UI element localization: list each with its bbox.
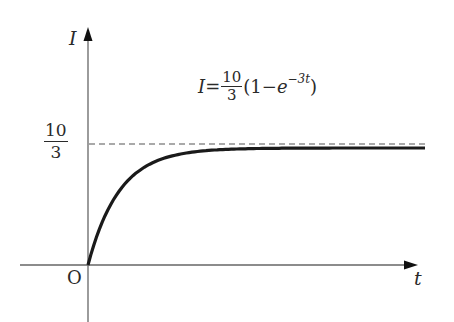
asymptote-label-denominator: 3 <box>50 142 61 161</box>
formula-minus: − <box>262 76 277 97</box>
formula-coefficient: 10 3 <box>221 70 242 103</box>
formula-base: e <box>277 76 288 97</box>
formula-paren-open: (1 <box>243 76 261 97</box>
x-axis-label: t <box>414 267 422 289</box>
current-curve <box>88 148 425 265</box>
y-axis-arrow-icon <box>84 27 93 41</box>
asymptote-label-numerator: 10 <box>44 122 68 142</box>
formula-paren-close: ) <box>310 76 317 97</box>
formula-lhs: I <box>198 76 205 97</box>
formula-exponent: −3t <box>288 72 311 86</box>
y-axis-label: I <box>69 27 77 49</box>
formula-annotation: I = 10 3 (1 − e −3t ) <box>198 70 317 103</box>
formula-equals: = <box>205 76 220 97</box>
formula-coef-numerator: 10 <box>221 70 242 87</box>
formula-coef-denominator: 3 <box>227 87 237 103</box>
origin-label: O <box>67 267 82 288</box>
asymptote-tick-label: 10 3 <box>44 122 68 161</box>
